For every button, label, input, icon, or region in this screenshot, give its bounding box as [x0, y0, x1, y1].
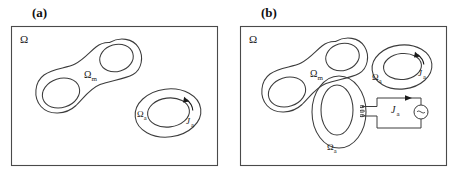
- figure-container: (a) Ω Ω m: [0, 0, 458, 173]
- svg-text:m: m: [318, 74, 324, 82]
- svg-text:a: a: [379, 77, 382, 84]
- domain-label-b: Ω: [249, 33, 257, 45]
- svg-text:a: a: [423, 73, 426, 80]
- domain-boundary-b: [241, 27, 447, 166]
- svg-text:Ω: Ω: [84, 69, 91, 80]
- panel-a-graphic: Ω Ω m Ω a: [0, 0, 229, 173]
- svg-text:a: a: [144, 114, 147, 121]
- svg-text:Ω: Ω: [310, 68, 317, 79]
- panel-a: (a) Ω Ω m: [0, 0, 229, 173]
- svg-text:m: m: [92, 75, 98, 83]
- panel-b-graphic: Ω Ω m Ω a J a: [229, 0, 458, 173]
- svg-text:a: a: [191, 121, 194, 128]
- panel-b: (b) Ω Ω m Ω a: [229, 0, 458, 173]
- svg-text:a: a: [334, 147, 337, 154]
- svg-text:J: J: [391, 104, 396, 115]
- domain-label-a: Ω: [20, 33, 28, 45]
